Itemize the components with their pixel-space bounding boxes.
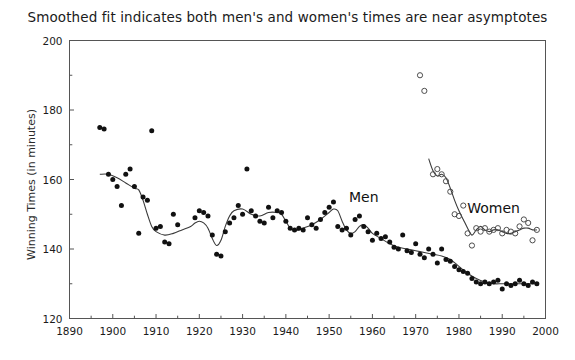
men-data-point [301, 227, 306, 232]
men-data-point [456, 267, 461, 272]
men-data-point [366, 229, 371, 234]
men-data-point [469, 276, 474, 281]
men-data-point [534, 281, 539, 286]
women-data-point [422, 88, 427, 93]
men-data-point [465, 271, 470, 276]
y-tick-label: 120 [42, 313, 62, 325]
y-tick-label: 140 [42, 243, 62, 255]
men-data-point [348, 233, 353, 238]
men-data-point [192, 215, 197, 220]
series-annotation-women: Women [467, 200, 520, 216]
men-data-point [452, 264, 457, 269]
men-data-point [97, 125, 102, 130]
men-data-point [123, 172, 128, 177]
men-data-point [249, 208, 254, 213]
men-data-point [275, 208, 280, 213]
x-tick-label: 1940 [272, 325, 299, 337]
men-data-point [149, 128, 154, 133]
men-data-point [482, 280, 487, 285]
women-data-point [526, 220, 531, 225]
chart-container: Smoothed fit indicates both men's and wo… [0, 0, 575, 360]
men-data-point [500, 286, 505, 291]
men-data-point [331, 200, 336, 205]
men-data-point [292, 227, 297, 232]
x-tick-label: 1970 [402, 325, 429, 337]
men-data-point [253, 213, 258, 218]
men-data-point [335, 224, 340, 229]
men-data-point [145, 198, 150, 203]
men-data-point [236, 203, 241, 208]
men-data-point [231, 215, 236, 220]
y-tick-label: 180 [42, 104, 62, 116]
x-axis-ticks: 1890190019101920193019401950196019701980… [56, 314, 559, 337]
men-data-point [370, 238, 375, 243]
x-tick-label: 1990 [489, 325, 516, 337]
men-data-point [461, 269, 466, 274]
men-data-point [495, 278, 500, 283]
women-data-point [435, 166, 440, 171]
x-tick-label: 1980 [446, 325, 473, 337]
men-data-point [387, 240, 392, 245]
men-data-point [353, 217, 358, 222]
women-data-point [530, 238, 535, 243]
men-data-point [244, 167, 249, 172]
men-data-point [504, 281, 509, 286]
men-data-point [448, 259, 453, 264]
men-data-point [344, 226, 349, 231]
men-data-point [487, 281, 492, 286]
men-data-point [167, 241, 172, 246]
men-data-point [132, 184, 137, 189]
men-data-point [197, 208, 202, 213]
men-data-point [400, 233, 405, 238]
men-data-point [175, 222, 180, 227]
men-data-point [474, 280, 479, 285]
men-data-point [405, 248, 410, 253]
women-data-point [517, 224, 522, 229]
men-data-point [119, 203, 124, 208]
men-data-point [327, 205, 332, 210]
men-data-point [491, 280, 496, 285]
men-data-point [223, 229, 228, 234]
men-data-point [115, 184, 120, 189]
men-data-point [227, 220, 232, 225]
x-tick-label: 1920 [186, 325, 213, 337]
women-data-point [417, 73, 422, 78]
men-data-point [279, 210, 284, 215]
y-tick-label: 200 [42, 35, 62, 47]
men-data-point [357, 213, 362, 218]
men-data-point [422, 255, 427, 260]
men-data-point [361, 224, 366, 229]
men-data-point [374, 231, 379, 236]
men-data-point [266, 205, 271, 210]
men-data-point [218, 253, 223, 258]
men-data-point [240, 212, 245, 217]
men-data-point [526, 283, 531, 288]
men-data-point [283, 219, 288, 224]
men-data-point [418, 252, 423, 257]
men-data-point [318, 217, 323, 222]
men-data-point [443, 257, 448, 262]
men-data-point [262, 220, 267, 225]
men-data-point [128, 167, 133, 172]
x-tick-label: 1910 [143, 325, 170, 337]
men-data-point [314, 226, 319, 231]
x-tick-label: 1950 [316, 325, 343, 337]
men-data-point [106, 172, 111, 177]
men-data-point [396, 247, 401, 252]
men-data-point [513, 281, 518, 286]
women-data-points [417, 73, 539, 248]
men-data-point [517, 278, 522, 283]
men-data-point [158, 224, 163, 229]
men-data-point [430, 252, 435, 257]
y-tick-label: 160 [42, 174, 62, 186]
x-tick-label: 1890 [56, 325, 83, 337]
men-data-point [110, 177, 115, 182]
men-data-point [383, 234, 388, 239]
men-data-point [309, 222, 314, 227]
men-data-point [340, 227, 345, 232]
men-data-point [413, 241, 418, 246]
men-data-point [305, 215, 310, 220]
chart-plot-area: 1890190019101920193019401950196019701980… [0, 0, 575, 360]
men-data-point [521, 281, 526, 286]
men-data-point [439, 247, 444, 252]
